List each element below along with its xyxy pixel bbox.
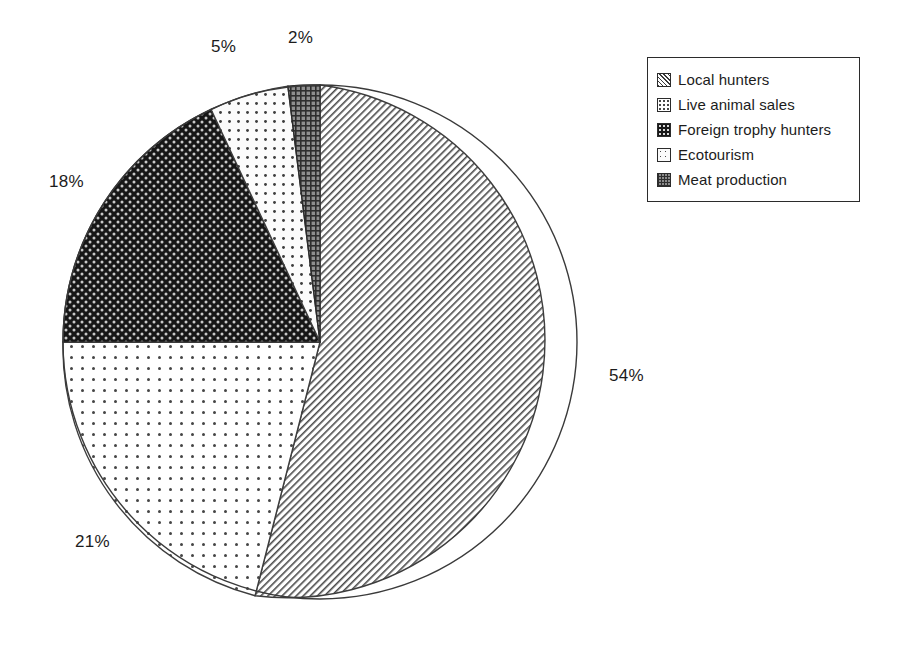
- legend-item-foreign-trophy-hunters[interactable]: Foreign trophy hunters: [657, 117, 851, 142]
- legend-label-local-hunters: Local hunters: [678, 71, 769, 88]
- legend-label-live-animal-sales: Live animal sales: [678, 96, 795, 113]
- legend-label-ecotourism: Ecotourism: [678, 146, 754, 163]
- legend-swatch-ecotourism-icon: [657, 148, 671, 162]
- pie-label-live-animal-sales: 21%: [75, 532, 110, 552]
- legend-item-ecotourism[interactable]: Ecotourism: [657, 142, 851, 167]
- legend-swatch-live-animal-sales-icon: [657, 98, 671, 112]
- pie-label-ecotourism: 5%: [211, 37, 236, 57]
- legend-item-meat-production[interactable]: Meat production: [657, 167, 851, 192]
- pie-label-local-hunters: 54%: [609, 366, 644, 386]
- legend-item-local-hunters[interactable]: Local hunters: [657, 67, 851, 92]
- pie-label-meat-production: 2%: [288, 28, 313, 48]
- pie-chart-figure: 54% 21% 18% 5% 2% Local hunters Live ani…: [0, 0, 909, 652]
- legend-swatch-foreign-trophy-hunters-icon: [657, 123, 671, 137]
- chart-legend: Local hunters Live animal sales Foreign …: [647, 57, 860, 202]
- legend-item-live-animal-sales[interactable]: Live animal sales: [657, 92, 851, 117]
- legend-swatch-meat-production-icon: [657, 173, 671, 187]
- legend-swatch-local-hunters-icon: [657, 73, 671, 87]
- legend-label-meat-production: Meat production: [678, 171, 787, 188]
- pie-label-foreign-trophy-hunters: 18%: [49, 172, 84, 192]
- legend-label-foreign-trophy-hunters: Foreign trophy hunters: [678, 121, 831, 138]
